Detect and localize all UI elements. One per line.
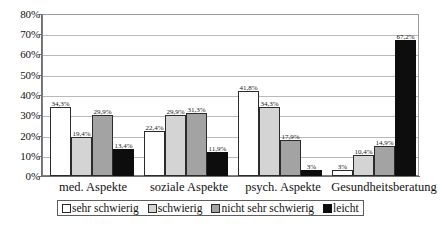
bar-leicht: 3% [301,170,322,176]
bar-group-med-aspekte: 34,3% 19,4% 29,9% 13,4% [50,14,136,176]
bar-value-label: 17,9% [281,133,299,141]
y-tick-label: 50% [2,70,40,81]
bar-schwierig: 19,4% [71,137,92,176]
bar-value-label: 34,3% [260,100,278,108]
bar-sehr-schwierig: 22,4% [144,131,165,176]
legend-swatch-icon [323,204,332,213]
bar-value-label: 3% [307,163,316,171]
bar-group-psych-aspekte: 41,8% 34,3% 17,9% 3% [238,14,324,176]
legend-label: nicht sehr schwierig [221,202,314,214]
legend-item-sehr-schwierig[interactable]: sehr schwierig [62,202,139,214]
legend-swatch-icon [211,204,220,213]
bar-nicht-sehr-schwierig: 31,3% [186,113,207,176]
x-category-label: med. Aspekte [42,179,144,196]
bar-value-label: 22,4% [145,124,163,132]
bar-schwierig: 29,9% [165,115,186,176]
bar-value-label: 41,8% [239,84,257,92]
bar-value-label: 14,9% [375,139,393,147]
bar-value-label: 3% [338,163,347,171]
bar-leicht: 13,4% [113,149,134,176]
y-tick-label: 70% [2,29,40,40]
x-category-label: Gesundheitsberatung [324,179,442,196]
legend-label: sehr schwierig [72,202,139,214]
legend-swatch-icon [62,204,71,213]
bar-leicht: 67,2% [395,40,416,176]
bar-value-label: 10,4% [354,148,372,156]
bar-value-label: 11,9% [209,145,227,153]
chart-legend: sehr schwierig schwierig nicht sehr schw… [57,200,364,216]
y-axis: 80% 70% 60% 50% 40% 30% 20% 10% 0% [0,0,40,231]
legend-label: leicht [333,202,359,214]
bar-value-label: 13,4% [114,142,132,150]
y-tick-label: 60% [2,49,40,60]
bar-value-label: 34,3% [51,100,69,108]
y-tick-label: 10% [2,151,40,162]
bar-sehr-schwierig: 3% [332,170,353,176]
bar-nicht-sehr-schwierig: 17,9% [280,140,301,176]
bar-group-gesundheitsberatung: 3% 10,4% 14,9% 67,2% [332,14,418,176]
bar-schwierig: 10,4% [353,155,374,176]
x-axis-line [42,176,420,177]
y-tick-label: 80% [2,9,40,20]
bar-sehr-schwierig: 41,8% [238,91,259,176]
bar-value-label: 19,4% [72,130,90,138]
bar-nicht-sehr-schwierig: 14,9% [374,146,395,176]
bar-groups: 34,3% 19,4% 29,9% 13,4% 22,4% 29,9% 31,3… [42,14,419,176]
y-tick-label: 0% [2,171,40,182]
bar-schwierig: 34,3% [259,107,280,177]
bar-nicht-sehr-schwierig: 29,9% [92,115,113,176]
y-tick-label: 20% [2,131,40,142]
legend-item-leicht[interactable]: leicht [323,202,359,214]
bar-value-label: 67,2% [396,33,414,41]
bar-sehr-schwierig: 34,3% [50,107,71,177]
x-category-label: soziale Aspekte [138,179,240,196]
x-axis-categories: med. Aspekte soziale Aspekte psych. Aspe… [42,179,419,199]
legend-label: schwierig [158,202,203,214]
bar-value-label: 29,9% [166,108,184,116]
bar-value-label: 31,3% [187,106,205,114]
legend-item-nicht-sehr-schwierig[interactable]: nicht sehr schwierig [211,202,314,214]
bar-group-soziale-aspekte: 22,4% 29,9% 31,3% 11,9% [144,14,230,176]
legend-swatch-icon [148,204,157,213]
legend-item-schwierig[interactable]: schwierig [148,202,203,214]
bar-leicht: 11,9% [207,152,228,176]
bar-value-label: 29,9% [93,108,111,116]
y-tick-label: 40% [2,90,40,101]
y-tick-label: 30% [2,110,40,121]
x-category-label: psych. Aspekte [232,179,334,196]
